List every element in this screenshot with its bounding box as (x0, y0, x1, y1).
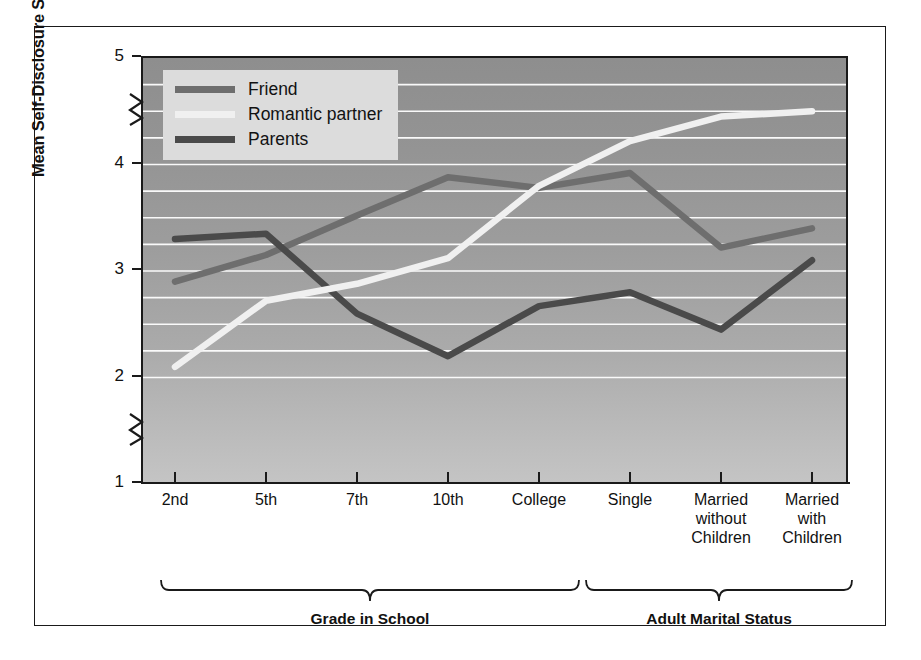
legend-item-romantic-partner: Romantic partner (175, 102, 382, 127)
y-axis-title: Mean Self-Disclosure Score (29, 0, 48, 177)
legend-swatch-romantic-partner (175, 111, 235, 118)
x-axis-tick-label: MarriedwithChildren (752, 490, 872, 547)
x-axis-tick (811, 472, 813, 482)
legend-item-parents: Parents (175, 127, 382, 152)
plot-area-wrapper: Friend Romantic partner Parents (141, 56, 848, 482)
y-axis-tick-label: 5 (94, 47, 124, 64)
chart-legend: Friend Romantic partner Parents (163, 70, 398, 160)
legend-item-friend: Friend (175, 77, 382, 102)
group-brace-grade-in-school (159, 578, 581, 604)
figure-frame: Mean Self-Disclosure Score Friend Romant… (34, 26, 886, 626)
y-axis-tick-label: 4 (94, 154, 124, 171)
y-axis-tick (132, 375, 141, 377)
y-axis: 54321 (141, 56, 142, 482)
legend-label-parents: Parents (248, 129, 308, 150)
y-axis-tick-label: 1 (94, 473, 124, 490)
x-axis-tick (265, 472, 267, 482)
y-axis-tick (132, 268, 141, 270)
group-label: Adult Marital Status (569, 610, 869, 628)
y-axis-tick (132, 55, 141, 57)
x-axis: 2nd5th7th10thCollegeSingleMarriedwithout… (141, 482, 848, 483)
y-axis-tick (132, 162, 141, 164)
x-axis-tick (538, 472, 540, 482)
x-axis-tick (174, 472, 176, 482)
group-brace-adult-marital-status (584, 578, 854, 604)
x-axis-spine (141, 482, 850, 484)
legend-swatch-parents (175, 136, 235, 143)
legend-swatch-friend (175, 86, 235, 93)
group-label: Grade in School (220, 610, 520, 628)
x-axis-tick (720, 472, 722, 482)
y-axis-tick-label: 3 (94, 260, 124, 277)
x-axis-tick (356, 472, 358, 482)
y-axis-break-mark (127, 412, 147, 446)
y-axis-tick (132, 481, 141, 483)
legend-label-friend: Friend (248, 79, 298, 100)
x-axis-tick (447, 472, 449, 482)
y-axis-tick-label: 2 (94, 367, 124, 384)
y-axis-break-mark (127, 92, 147, 126)
legend-label-romantic-partner: Romantic partner (248, 104, 382, 125)
x-axis-tick (629, 472, 631, 482)
